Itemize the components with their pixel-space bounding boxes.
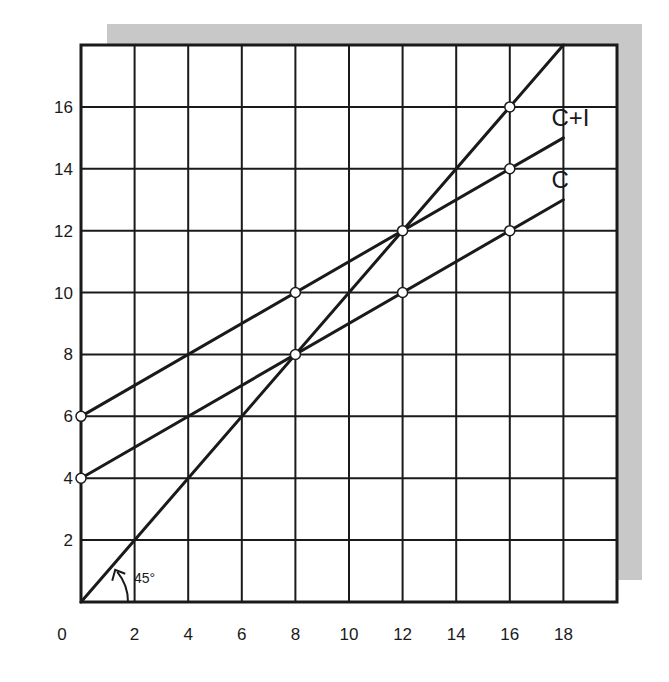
data-point-marker: [76, 473, 86, 483]
series-label-c-i: C+I: [551, 104, 589, 131]
y-axis-ticks: 246810121416: [54, 98, 73, 550]
angle-label: 45°: [134, 570, 155, 586]
x-axis-ticks: 024681012141618: [57, 625, 573, 644]
data-point-marker: [290, 288, 300, 298]
y-tick-label: 2: [64, 531, 73, 550]
x-tick-label: 14: [447, 625, 466, 644]
x-tick-label: 18: [554, 625, 573, 644]
x-tick-label: 8: [291, 625, 300, 644]
data-point-marker: [398, 226, 408, 236]
y-tick-label: 4: [64, 469, 73, 488]
data-point-marker: [76, 411, 86, 421]
data-point-marker: [290, 349, 300, 359]
data-point-marker: [505, 164, 515, 174]
data-point-marker: [505, 226, 515, 236]
data-point-marker: [398, 288, 408, 298]
y-tick-label: 10: [54, 284, 73, 303]
x-tick-label: 0: [57, 625, 66, 644]
series-label-c: C: [551, 166, 568, 193]
y-tick-label: 8: [64, 345, 73, 364]
data-point-marker: [505, 102, 515, 112]
y-tick-label: 14: [54, 160, 73, 179]
x-tick-label: 10: [340, 625, 359, 644]
x-tick-label: 4: [183, 625, 192, 644]
shadow-top: [107, 24, 642, 46]
y-tick-label: 12: [54, 222, 73, 241]
chart: 45° 024681012141618 246810121416 C+IC: [0, 0, 669, 682]
x-tick-label: 12: [393, 625, 412, 644]
x-tick-label: 16: [500, 625, 519, 644]
y-tick-label: 6: [64, 407, 73, 426]
y-tick-label: 16: [54, 98, 73, 117]
x-tick-label: 2: [130, 625, 139, 644]
x-tick-label: 6: [237, 625, 246, 644]
shadow-right: [617, 24, 642, 580]
